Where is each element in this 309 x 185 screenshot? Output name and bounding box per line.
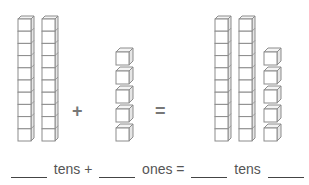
base-ten-blocks-scene: + = <box>0 0 309 150</box>
result-tens-rod <box>215 16 231 141</box>
rod-unit-cube <box>42 129 55 141</box>
rod-unit-cube <box>215 68 228 80</box>
label-ones-equals: ones = <box>142 160 184 178</box>
rod-unit-cube <box>42 56 55 68</box>
rod-unit-cube <box>239 56 252 68</box>
rod-unit-cube <box>42 80 55 92</box>
rod-unit-cube <box>239 31 252 43</box>
rod-unit-cube <box>215 129 228 141</box>
blank-ones-1[interactable] <box>99 163 135 178</box>
rod-unit-cube <box>18 80 31 92</box>
rod-unit-cube <box>239 92 252 104</box>
ones-cube <box>264 86 281 103</box>
rod-unit-cube <box>18 56 31 68</box>
rod-unit-cube <box>239 117 252 129</box>
rod-unit-cube <box>215 80 228 92</box>
result-tens-rod <box>239 16 255 141</box>
rod-unit-cube <box>18 68 31 80</box>
rod-unit-cube <box>215 104 228 116</box>
rod-unit-cube <box>239 80 252 92</box>
rod-unit-cube <box>239 19 252 31</box>
blank-ones-2[interactable] <box>268 163 304 178</box>
label-tens: tens <box>234 160 260 178</box>
rod-unit-cube <box>42 104 55 116</box>
tens-rod <box>18 16 34 141</box>
rod-unit-cube <box>215 56 228 68</box>
tens-rod <box>42 16 58 141</box>
rod-unit-cube <box>239 68 252 80</box>
rod-unit-cube <box>18 31 31 43</box>
rod-unit-cube <box>18 129 31 141</box>
rod-unit-cube <box>18 117 31 129</box>
rod-unit-cube <box>42 43 55 55</box>
ones-cube <box>116 105 133 122</box>
rod-unit-cube <box>42 19 55 31</box>
rod-unit-cube <box>42 92 55 104</box>
ones-cube <box>264 48 281 65</box>
ones-cube <box>116 48 133 65</box>
ones-cube <box>116 67 133 84</box>
plus-sign: + <box>72 101 83 121</box>
rod-unit-cube <box>239 43 252 55</box>
label-tens-plus: tens + <box>54 160 93 178</box>
left-addend-tens-rods <box>18 16 58 141</box>
blank-tens-2[interactable] <box>191 163 227 178</box>
rod-unit-cube <box>215 117 228 129</box>
rod-unit-cube <box>42 117 55 129</box>
rod-unit-cube <box>215 43 228 55</box>
ones-cube <box>116 124 133 141</box>
result-blocks <box>215 16 281 141</box>
ones-cube <box>264 67 281 84</box>
blank-tens-1[interactable] <box>11 163 47 178</box>
ones-cube <box>264 124 281 141</box>
rod-unit-cube <box>215 92 228 104</box>
rod-unit-cube <box>18 104 31 116</box>
rod-unit-cube <box>239 104 252 116</box>
ones-cube <box>264 105 281 122</box>
equation-line: tens + ones = tens ones <box>0 160 309 184</box>
right-addend-ones-cubes <box>116 48 133 141</box>
ones-cube <box>116 86 133 103</box>
rod-unit-cube <box>42 68 55 80</box>
rod-unit-cube <box>239 129 252 141</box>
rod-unit-cube <box>18 92 31 104</box>
equals-sign: = <box>155 101 166 121</box>
rod-unit-cube <box>18 19 31 31</box>
rod-unit-cube <box>215 31 228 43</box>
rod-unit-cube <box>42 31 55 43</box>
rod-unit-cube <box>215 19 228 31</box>
rod-unit-cube <box>18 43 31 55</box>
